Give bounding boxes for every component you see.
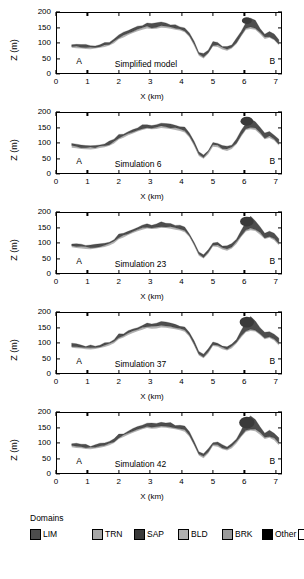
legend-label: LIM [43, 530, 57, 539]
legend-item: N/A [298, 529, 304, 540]
x-tick-label: 7 [273, 174, 277, 186]
y-tick-label: 200 [38, 208, 56, 216]
legend-label: SAP [147, 530, 164, 539]
x-tick-label: 6 [242, 174, 246, 186]
y-tick-label: 50 [42, 55, 56, 63]
domain-band-trn [72, 26, 279, 59]
x-tick-label: 3 [148, 74, 152, 86]
y-tick-label: 100 [38, 139, 56, 147]
endpoint-label-a: A [76, 57, 82, 66]
x-tick-label: 4 [179, 174, 183, 186]
panel-caption: Simulation 42 [115, 460, 167, 469]
legend-swatch-icon [178, 529, 189, 540]
x-tick-label: 6 [242, 274, 246, 286]
terrain-profile [56, 112, 282, 174]
legend-label: BLD [191, 530, 208, 539]
x-tick-label: 5 [211, 74, 215, 86]
domain-band-trn [72, 326, 279, 359]
domain-band-trn [72, 126, 279, 159]
x-tick-label: 3 [148, 174, 152, 186]
x-tick-label: 2 [117, 274, 121, 286]
y-tick-label: 200 [38, 108, 56, 116]
legend-item: LIM [30, 529, 57, 540]
x-tick-label: 3 [148, 274, 152, 286]
y-tick-label: 50 [42, 355, 56, 363]
x-tick-label: 7 [273, 274, 277, 286]
endpoint-label-a: A [76, 457, 82, 466]
cross-section-panel: Z (m)X (km)05010015020001234567ABSimulat… [0, 200, 304, 300]
endpoint-label-a: A [76, 357, 82, 366]
y-axis-label: Z (m) [9, 339, 19, 361]
y-tick-label: 200 [38, 408, 56, 416]
endpoint-label-a: A [76, 257, 82, 266]
x-tick-label: 0 [54, 374, 58, 386]
domain-mass-sap [242, 17, 252, 24]
plot-area: 05010015020001234567ABSimulation 23 [56, 212, 282, 274]
x-tick-label: 2 [117, 174, 121, 186]
cross-section-panel: Z (m)X (km)05010015020001234567ABSimulat… [0, 100, 304, 200]
domain-mass-sap [240, 317, 254, 328]
legend-item: Other [262, 529, 296, 540]
plot-area: 05010015020001234567ABSimulation 37 [56, 312, 282, 374]
terrain-profile [56, 412, 282, 474]
x-tick-label: 3 [148, 374, 152, 386]
panel-caption: Simplified model [115, 60, 177, 69]
x-tick-label: 5 [211, 274, 215, 286]
legend-swatch-icon [262, 529, 273, 540]
y-tick-label: 50 [42, 255, 56, 263]
x-axis-label: X (km) [0, 492, 304, 501]
panel-stack: Z (m)X (km)05010015020001234567ABSimplif… [0, 0, 304, 500]
y-tick-label: 150 [38, 224, 56, 232]
x-tick-label: 4 [179, 474, 183, 486]
terrain-profile [56, 212, 282, 274]
domain-mass-sap [239, 417, 254, 429]
y-axis-label: Z (m) [9, 239, 19, 261]
y-tick-label: 200 [38, 308, 56, 316]
legend-item: TRN [92, 529, 122, 540]
x-tick-label: 5 [211, 474, 215, 486]
plot-area: 05010015020001234567ABSimulation 42 [56, 412, 282, 474]
x-tick-label: 1 [85, 474, 89, 486]
x-tick-label: 1 [85, 74, 89, 86]
x-tick-label: 6 [242, 374, 246, 386]
y-axis-label: Z (m) [9, 39, 19, 61]
y-axis-label: Z (m) [9, 139, 19, 161]
x-tick-label: 1 [85, 274, 89, 286]
x-tick-label: 2 [117, 474, 121, 486]
legend-items: LIMTRNSAPBLDBRKOtherN/A [30, 529, 298, 547]
panel-caption: Simulation 6 [115, 160, 162, 169]
x-tick-label: 7 [273, 374, 277, 386]
y-tick-label: 150 [38, 424, 56, 432]
x-tick-label: 2 [117, 374, 121, 386]
x-tick-label: 7 [273, 74, 277, 86]
legend-swatch-icon [298, 529, 304, 540]
cross-section-panel: Z (m)X (km)05010015020001234567ABSimulat… [0, 300, 304, 400]
legend-label: BRK [235, 530, 252, 539]
y-tick-label: 150 [38, 324, 56, 332]
cross-section-panel: Z (m)X (km)05010015020001234567ABSimplif… [0, 0, 304, 100]
endpoint-label-b: B [270, 157, 276, 166]
legend-label: Other [275, 530, 296, 539]
legend-swatch-icon [222, 529, 233, 540]
panel-caption: Simulation 37 [115, 360, 167, 369]
x-tick-label: 5 [211, 174, 215, 186]
plot-area: 05010015020001234567ABSimplified model [56, 12, 282, 74]
domain-mass-sap [240, 217, 254, 227]
cross-section-panel: Z (m)X (km)05010015020001234567ABSimulat… [0, 400, 304, 500]
x-tick-label: 3 [148, 474, 152, 486]
y-tick-label: 50 [42, 155, 56, 163]
x-tick-label: 0 [54, 474, 58, 486]
x-tick-label: 6 [242, 74, 246, 86]
x-tick-label: 1 [85, 174, 89, 186]
domain-band-trn [72, 226, 279, 259]
legend-item: BLD [178, 529, 208, 540]
y-tick-label: 150 [38, 124, 56, 132]
legend-swatch-icon [92, 529, 103, 540]
y-tick-label: 200 [38, 8, 56, 16]
legend-item: BRK [222, 529, 252, 540]
y-tick-label: 100 [38, 39, 56, 47]
x-tick-label: 1 [85, 374, 89, 386]
terrain-profile [56, 312, 282, 374]
y-tick-label: 100 [38, 439, 56, 447]
endpoint-label-b: B [270, 257, 276, 266]
